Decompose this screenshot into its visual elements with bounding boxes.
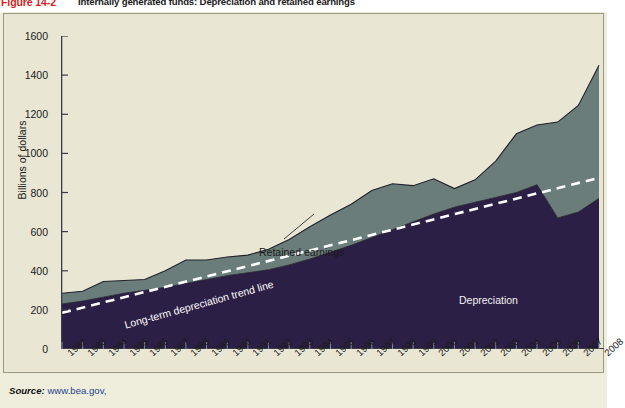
y-tick-label: 1400 (25, 69, 48, 81)
depreciation-area (62, 185, 599, 349)
figure-number: Figure 14-2 (1, 0, 56, 8)
source-note: Source: www.bea.gov, (9, 385, 106, 396)
y-tick-label: 400 (30, 265, 48, 277)
y-tick-label: 800 (30, 187, 48, 199)
y-axis-title: Billions of dollars (16, 90, 28, 230)
y-tick-label: 600 (30, 226, 48, 238)
x-tick-label: 2008 (602, 336, 625, 358)
plot-area: Retained earnings Depreciation Long-term… (61, 36, 604, 349)
source-url[interactable]: www.bea.gov, (47, 385, 106, 396)
figure-title-bar: Figure 14-2 Internally generated funds: … (0, 0, 607, 12)
area-chart-svg (61, 36, 604, 349)
chart-panel: 02004006008001000120014001600 Billions o… (3, 13, 604, 373)
y-tick-label: 1200 (25, 108, 48, 120)
y-tick-label: 1000 (25, 147, 48, 159)
y-axis-tick-labels: 02004006008001000120014001600 (4, 36, 54, 349)
source-label: Source: (9, 385, 45, 396)
y-tick-label: 1600 (25, 30, 48, 42)
stacked-areas (62, 65, 599, 349)
figure-title: Internally generated funds: Depreciation… (78, 0, 355, 7)
y-tick-label: 0 (42, 343, 48, 355)
y-tick-label: 200 (30, 304, 48, 316)
x-axis-tick-labels: 1982198319841985198619871988198919901991… (61, 350, 609, 390)
